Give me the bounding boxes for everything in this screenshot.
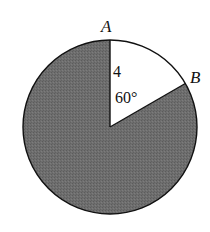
point-label-b: B [190,68,201,87]
radius-label: 4 [113,63,121,80]
point-label-a: A [100,17,112,36]
circle-diagram: A B 4 60° [0,0,210,232]
angle-label: 60° [115,89,137,106]
